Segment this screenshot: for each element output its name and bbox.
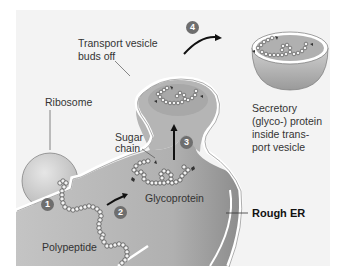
vesicle-leader [115,61,130,76]
step-badge-2: 2 [114,206,127,219]
label-transport-vesicle-2: buds off [78,50,115,62]
label-transport-vesicle-1: Transport vesicle [78,37,158,49]
label-glycoprotein: Glycoprotein [145,192,204,204]
step-badge-1: 1 [41,198,54,211]
label-ribosome: Ribosome [45,96,92,108]
step-badge-3: 3 [180,136,193,149]
label-secretory-1: Secretory [252,102,297,114]
arrow-step-4 [184,37,216,54]
label-rough-er: Rough ER [252,207,305,219]
label-sugar-2: chain [115,142,140,154]
step-badge-4: 4 [186,21,199,34]
label-secretory-3: inside trans- [252,128,309,140]
label-polypeptide: Polypeptide [42,241,97,253]
label-secretory-4: port vesicle [252,141,305,153]
label-secretory-2: (glyco-) protein [252,115,322,127]
